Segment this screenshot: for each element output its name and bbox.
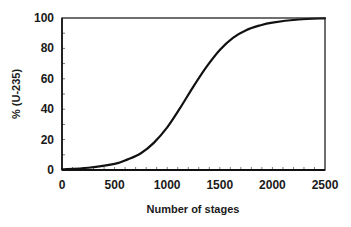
y-axis-title: % (U-235) xyxy=(10,69,22,119)
y-tick-label: 100 xyxy=(34,11,54,25)
minor-ticks xyxy=(62,33,314,170)
y-tick-label: 0 xyxy=(47,163,54,177)
x-tick-label: 2500 xyxy=(312,178,339,192)
x-tick-label: 0 xyxy=(59,178,66,192)
x-tick-label: 500 xyxy=(105,178,125,192)
y-tick-label: 40 xyxy=(41,102,55,116)
x-tick-label: 1000 xyxy=(154,178,181,192)
x-tick-label: 1500 xyxy=(206,178,233,192)
x-tick-label: 2000 xyxy=(259,178,286,192)
y-tick-label: 20 xyxy=(41,133,55,147)
x-tick-labels: 05001000150020002500 xyxy=(59,178,339,192)
y-tick-label: 60 xyxy=(41,72,55,86)
y-tick-labels: 020406080100 xyxy=(34,11,54,177)
x-axis-title: Number of stages xyxy=(147,203,240,215)
chart: 020406080100 05001000150020002500 Number… xyxy=(0,0,351,227)
series-line xyxy=(62,18,325,169)
y-tick-label: 80 xyxy=(41,41,55,55)
plot-frame xyxy=(62,18,325,170)
